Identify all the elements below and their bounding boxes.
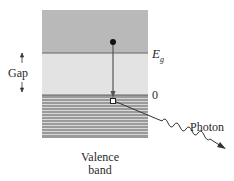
band-diagram: Eg 0 Gap Photon Valence band	[0, 0, 234, 181]
valence-band	[42, 95, 148, 138]
band-gap-region	[42, 53, 148, 95]
valence-label-line2: band	[81, 164, 119, 177]
gap-label: Gap	[8, 67, 28, 79]
electron-dot	[110, 39, 116, 45]
hole-square	[111, 99, 116, 104]
photon-label: Photon	[190, 121, 224, 133]
conduction-band	[42, 10, 148, 53]
photon-arrowhead	[217, 142, 226, 149]
valence-band-label: Valence band	[81, 151, 119, 177]
valence-edge-label: 0	[152, 89, 158, 101]
conduction-edge-label: Eg	[152, 47, 164, 64]
